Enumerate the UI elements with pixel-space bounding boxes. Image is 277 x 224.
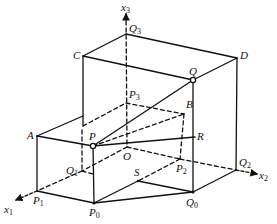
point-s-marker: [137, 180, 140, 183]
label-p3: P3: [129, 89, 140, 102]
label-q2: Q2: [239, 157, 251, 170]
label-p: P: [89, 131, 96, 142]
label-p2: P2: [176, 163, 187, 176]
point-p-marker: [90, 143, 95, 148]
label-r: R: [197, 131, 204, 142]
axis-label-x2: x2: [259, 170, 268, 183]
label-d: D: [240, 50, 248, 61]
x2-axis-arrow: [236, 170, 257, 174]
point-q0-marker: [191, 190, 194, 193]
axis-label-x1: x1: [4, 204, 13, 217]
label-c: C: [73, 50, 80, 61]
axis-label-x3: x3: [121, 2, 130, 15]
point-q-marker: [190, 77, 195, 82]
label-q1: Q1: [66, 165, 78, 178]
label-q0: Q0: [186, 197, 198, 210]
label-p0: P0: [89, 207, 100, 220]
label-s: S: [134, 167, 140, 178]
label-o: O: [123, 151, 131, 162]
label-q: Q: [189, 66, 197, 77]
geometry-diagram: x1 x2 x3 Q3 C D Q P3 B A P R O Q1 S P2 Q…: [0, 0, 277, 224]
label-q3: Q3: [129, 23, 141, 36]
point-p0-marker: [92, 201, 95, 204]
label-b: B: [186, 99, 193, 110]
label-a: A: [27, 130, 34, 141]
label-p1: P1: [33, 195, 44, 208]
